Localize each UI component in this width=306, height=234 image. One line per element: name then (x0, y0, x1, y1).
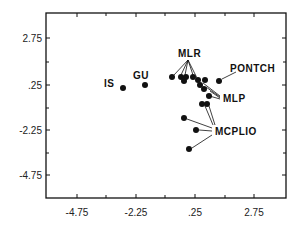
scatter-chart: -4.75 -2.25 .25 2.75 2.75 .25 -2.25 -4.7… (0, 0, 306, 234)
point-gu (142, 82, 148, 88)
label-pontch: PONTCH (230, 63, 275, 74)
label-is: IS (104, 78, 114, 89)
x-tick-label: -4.75 (66, 207, 89, 218)
label-gu: GU (133, 70, 149, 81)
label-mcplio: MCPLIO (215, 126, 257, 137)
point-pontch (216, 78, 222, 84)
x-tick-label: .25 (188, 207, 202, 218)
y-tick-label: 2.75 (23, 33, 43, 44)
point-is (120, 85, 126, 91)
y-ticks (46, 38, 286, 175)
x-tick-label: 2.75 (244, 207, 264, 218)
y-tick-label: -2.25 (19, 125, 42, 136)
plot-frame (46, 13, 286, 198)
x-tick-label: -2.25 (125, 207, 148, 218)
y-tick-label: -4.75 (19, 170, 42, 181)
label-mlp: MLP (223, 93, 246, 104)
y-tick-label: .25 (28, 80, 42, 91)
label-mlr: MLR (178, 48, 201, 59)
plot-area: -4.75 -2.25 .25 2.75 2.75 .25 -2.25 -4.7… (0, 0, 306, 234)
x-ticks (77, 13, 254, 198)
